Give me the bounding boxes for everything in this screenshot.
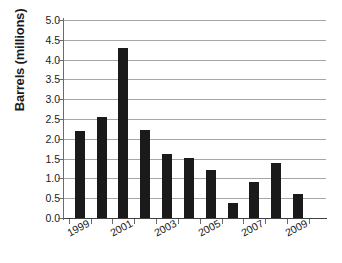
bar bbox=[118, 48, 128, 218]
y-axis-tick-label: 2.0 bbox=[30, 133, 60, 144]
x-axis-tick-mark bbox=[69, 219, 70, 224]
x-axis-tick-mark bbox=[91, 219, 92, 224]
bar bbox=[228, 203, 238, 218]
y-axis-tick-label: 2.5 bbox=[30, 114, 60, 125]
x-axis-tick-mark bbox=[287, 219, 288, 224]
y-axis-tick-label: 4.0 bbox=[30, 54, 60, 65]
bar bbox=[184, 158, 194, 218]
y-axis-tick-mark bbox=[58, 79, 64, 80]
x-axis-tick-mark bbox=[134, 219, 135, 224]
y-axis-tick-mark bbox=[58, 119, 64, 120]
y-axis-tick-label: 0.0 bbox=[30, 213, 60, 224]
bar bbox=[75, 131, 85, 218]
y-axis-tick-mark bbox=[58, 99, 64, 100]
x-axis-tick-mark bbox=[222, 219, 223, 224]
x-axis-tick-mark bbox=[309, 219, 310, 224]
x-axis-tick-mark bbox=[265, 219, 266, 224]
bar bbox=[97, 117, 107, 218]
plot-area bbox=[64, 20, 326, 218]
bar bbox=[162, 154, 172, 218]
bar bbox=[271, 163, 281, 218]
y-axis-title: Barrels (millions) bbox=[12, 0, 32, 140]
x-axis-tick-mark bbox=[243, 219, 244, 224]
bar bbox=[140, 130, 150, 218]
y-axis-tick-label: 0.5 bbox=[30, 193, 60, 204]
x-axis-tick-mark bbox=[178, 219, 179, 224]
x-axis-tick-mark bbox=[112, 219, 113, 224]
y-axis-tick-mark bbox=[58, 20, 64, 21]
y-axis-tick-label: 3.5 bbox=[30, 74, 60, 85]
y-axis-tick-label: 3.0 bbox=[30, 94, 60, 105]
y-axis-tick-mark bbox=[58, 60, 64, 61]
y-axis-tick-mark bbox=[58, 139, 64, 140]
y-axis-tick-label: 5.0 bbox=[30, 15, 60, 26]
bar bbox=[293, 194, 303, 218]
y-axis-tick-labels: 0.00.51.01.52.02.53.03.54.04.55.0 bbox=[30, 14, 60, 224]
y-axis-tick-mark bbox=[58, 159, 64, 160]
bar bbox=[249, 182, 259, 218]
y-axis-tick-mark bbox=[58, 178, 64, 179]
y-axis-tick-label: 1.5 bbox=[30, 153, 60, 164]
x-axis-tick-mark bbox=[156, 219, 157, 224]
bar-series bbox=[64, 20, 326, 218]
y-axis-tick-mark bbox=[58, 218, 64, 219]
bar-chart: Barrels (millions) 0.00.51.01.52.02.53.0… bbox=[0, 0, 342, 263]
x-axis-tick-mark bbox=[200, 219, 201, 224]
bar bbox=[206, 170, 216, 218]
y-axis-tick-mark bbox=[58, 40, 64, 41]
y-axis-tick-label: 4.5 bbox=[30, 34, 60, 45]
y-axis-tick-mark bbox=[58, 198, 64, 199]
y-axis-tick-label: 1.0 bbox=[30, 173, 60, 184]
